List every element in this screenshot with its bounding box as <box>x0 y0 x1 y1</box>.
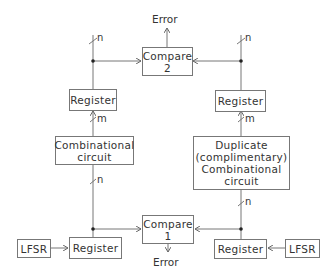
compare-2-label: Compare <box>143 50 193 62</box>
compare-1-number: 1 <box>165 230 172 242</box>
compare-2-number: 2 <box>164 62 171 74</box>
comb-left-line1: Combinational <box>54 139 134 151</box>
comb-right-line2: (complimentary) <box>195 151 287 163</box>
register-bottom-right: Register <box>214 239 267 259</box>
comb-left-line2: circuit <box>77 151 111 163</box>
error-output-label-bottom: Error <box>153 256 179 268</box>
bus-label-bottom-left: n <box>97 174 103 186</box>
duplicate-combinational-circuit-block: Duplicate (complimentary) Combinational … <box>193 136 290 190</box>
compare-2-block: Compare 2 <box>142 47 193 76</box>
bus-label-top-right: n <box>245 32 251 44</box>
comb-right-line1: Duplicate <box>215 139 268 151</box>
bus-label-mid-left: m <box>97 113 107 125</box>
comb-right-line4: circuit <box>224 175 258 187</box>
register-top-right: Register <box>215 90 266 112</box>
comb-right-line3: Combinational <box>201 163 281 175</box>
error-output-label-top: Error <box>152 13 178 25</box>
register-top-left: Register <box>69 89 117 111</box>
lfsr-left: LFSR <box>17 239 51 258</box>
lfsr-right: LFSR <box>285 239 320 258</box>
bus-label-top-left: n <box>97 32 103 44</box>
compare-1-label: Compare <box>143 218 193 230</box>
compare-1-block: Compare 1 <box>142 215 194 244</box>
combinational-circuit-block: Combinational circuit <box>55 136 134 165</box>
bus-label-bottom-right: n <box>245 196 251 208</box>
register-bottom-left: Register <box>69 237 122 259</box>
bus-label-mid-right: m <box>245 113 255 125</box>
